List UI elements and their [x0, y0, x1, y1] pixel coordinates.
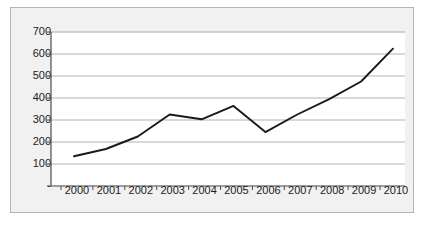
x-axis-tick-label: 2010 — [376, 185, 416, 196]
x-axis-tick-labels: 2000200120022003200420052006200720082009… — [11, 185, 415, 205]
chart-panel: -100200300400500600700 20002001200220032… — [10, 7, 414, 213]
